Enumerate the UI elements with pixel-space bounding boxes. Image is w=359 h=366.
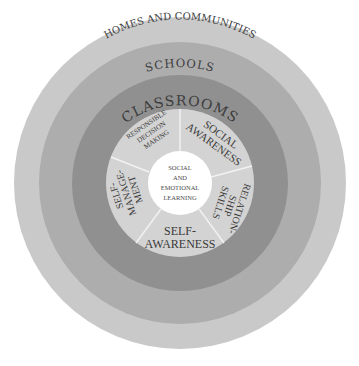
svg-text:EMOTIONAL: EMOTIONAL bbox=[161, 184, 200, 191]
svg-text:LEARNING: LEARNING bbox=[163, 194, 197, 201]
svg-text:AWARENESS: AWARENESS bbox=[144, 237, 215, 251]
sel-diagram: HOMES AND COMMUNITIES SCHOOLS CLASSROOMS… bbox=[0, 0, 359, 366]
svg-text:SOCIAL: SOCIAL bbox=[168, 164, 192, 171]
center-circle bbox=[148, 151, 212, 215]
svg-text:SELF-: SELF- bbox=[164, 224, 196, 238]
svg-text:AND: AND bbox=[173, 174, 187, 181]
